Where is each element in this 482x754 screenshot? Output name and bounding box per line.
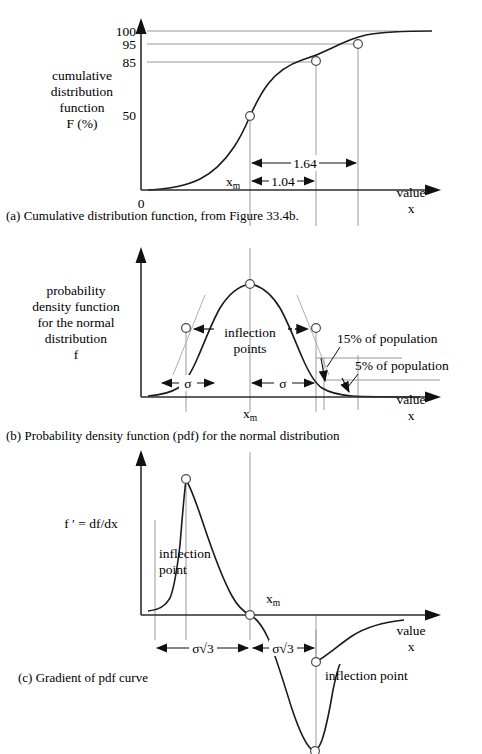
leader-15-percent (327, 347, 340, 367)
sigma-left-label: σ (184, 376, 192, 391)
gradient-curve-right-tail (316, 620, 404, 662)
y-tick-95-a: 95 (123, 37, 137, 52)
y-axis-arrow-c (136, 450, 147, 466)
sigma-right-label: σ (279, 376, 287, 391)
x-axis-arrow-c (425, 610, 441, 621)
pdf-peak-marker (246, 280, 255, 289)
dimension-1-04-label: 1.04 (271, 174, 295, 189)
panel-a-cdf: 100 95 85 50 cumulative distribution fun… (6, 18, 441, 226)
x-axis-arrow-a (425, 185, 441, 196)
panel-c-gradient: f ′ = df/dx inflection point xm σ√3 σ√3 … (18, 450, 441, 754)
y-axis-label-a-line2: distribution (51, 84, 114, 99)
annotation-15-percent: 15% of population (337, 331, 438, 346)
dimension-sigma-right: σ (252, 375, 314, 391)
y-axis-label-b-line4: distribution (45, 331, 108, 346)
gradient-inflection-right-marker (312, 658, 321, 667)
x-axis-label-c-line2: x (408, 639, 415, 654)
tangent-left (173, 295, 205, 375)
dimension-1-64-label: 1.64 (293, 156, 317, 171)
sigma-root3-left-label: σ√3 (192, 641, 214, 656)
y-axis-label-a-line1: cumulative (52, 68, 112, 83)
panel-b-pdf: probability density function for the nor… (6, 247, 449, 443)
x-axis-label-b-line1: value (396, 392, 425, 407)
y-tick-50-a: 50 (123, 108, 137, 123)
xm-label-a: xm (226, 174, 241, 191)
gradient-min-marker (311, 747, 320, 754)
inflection-left-label-c-line2: point (159, 562, 187, 577)
dimension-1-04: 1.04 (252, 173, 314, 189)
gradient-zero-marker (246, 611, 255, 620)
gradient-max-marker (182, 475, 191, 484)
pdf-inflection-left-marker (182, 324, 191, 333)
x-axis-label-c-line1: value (396, 623, 425, 638)
x-axis-label-b-line2: x (408, 408, 415, 423)
tangent-right (297, 295, 329, 375)
y-axis-arrow-b (136, 247, 147, 263)
y-axis-arrow-a (136, 18, 147, 34)
sigma-root3-right-label: σ√3 (272, 641, 294, 656)
inflection-left-label-c-line1: inflection (159, 546, 211, 561)
dimension-sigma-left: σ (162, 375, 214, 391)
figure-normal-distribution: 100 95 85 50 cumulative distribution fun… (0, 0, 482, 754)
dimension-sigma-root3-left: σ√3 (157, 640, 248, 656)
inflection-label-b-line1: inflection (224, 325, 276, 340)
x-axis-label-a-line1: value (396, 185, 425, 200)
inflection-label-b-line2: points (233, 341, 266, 356)
cdf-point-85 (312, 57, 321, 66)
y-tick-85-a: 85 (123, 55, 137, 70)
caption-a: (a) Cumulative distribution function, fr… (6, 208, 299, 223)
y-axis-label-b-line3: for the normal (37, 315, 114, 330)
inflection-right-label-c: inflection point (325, 668, 408, 683)
y-axis-label-c: f ′ = df/dx (64, 516, 118, 531)
dimension-1-64: 1.64 (252, 155, 356, 171)
x-axis-label-a-line2: x (408, 201, 415, 216)
cdf-curve (148, 31, 432, 190)
pdf-inflection-right-marker (312, 324, 321, 333)
y-axis-label-b-line5: f (74, 347, 79, 362)
caption-b: (b) Probability density function (pdf) f… (6, 428, 340, 443)
x-axis-arrow-b (425, 392, 441, 403)
y-axis-label-b-line2: density function (32, 299, 120, 314)
dimension-sigma-root3-right: σ√3 (253, 640, 314, 656)
cdf-point-50 (246, 112, 255, 121)
cdf-point-95 (354, 40, 363, 49)
y-axis-label-a-line3: function (60, 100, 105, 115)
xm-label-c: xm (266, 591, 281, 608)
annotation-5-percent: 5% of population (355, 358, 449, 373)
caption-c: (c) Gradient of pdf curve (18, 670, 148, 685)
y-axis-label-a-line4: F (%) (66, 116, 97, 131)
y-axis-label-b-line1: probability (46, 283, 105, 298)
